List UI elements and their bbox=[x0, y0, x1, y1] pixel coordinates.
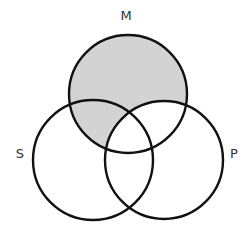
label-p: P bbox=[230, 146, 238, 161]
label-m: M bbox=[120, 8, 131, 23]
label-s: S bbox=[16, 146, 24, 161]
venn-diagram: M S P bbox=[0, 0, 250, 236]
